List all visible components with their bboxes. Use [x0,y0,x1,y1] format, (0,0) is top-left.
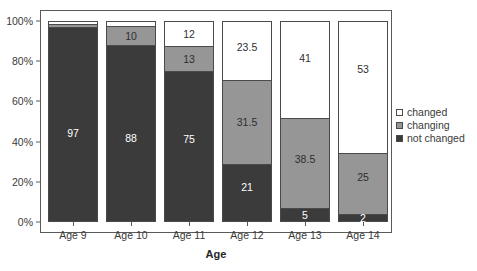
xtick-mark-age-13 [305,222,306,226]
segment-changed-age-13[interactable]: 41 [281,22,329,118]
segment-changing-age-12[interactable]: 31.5 [223,80,271,166]
xtick-label-age-12: Age 12 [230,229,263,241]
xtick-mark-age-11 [189,222,190,226]
ytick-label-40: 40% [12,136,33,148]
ytick-label-100: 100% [6,15,33,27]
bar-group-age-11: 12 13 75 Age 11 [164,21,214,222]
legend-item-not-changed[interactable]: not changed [396,132,476,144]
segment-label-changing-age-13: 38.5 [295,154,315,165]
legend: changed changing not changed [396,106,476,145]
x-axis-title: Age [40,248,392,260]
segment-changing-age-11[interactable]: 13 [165,46,213,72]
bar-group-age-9: 97 Age 9 [48,21,98,222]
xtick-mark-age-12 [247,222,248,226]
xtick-label-age-11: Age 11 [173,229,206,241]
legend-swatch-not-changed-icon [396,135,403,142]
segment-label-changing-age-12: 31.5 [237,117,257,128]
xtick-label-age-10: Age 10 [114,229,147,241]
ytick-label-0: 0% [18,216,33,228]
bar-group-age-14: 53 25 2 Age 14 [338,21,388,222]
ytick-label-80: 80% [12,55,33,67]
ytick-label-20: 20% [12,176,33,188]
ytick-label-60: 60% [12,95,33,107]
bar-age-14[interactable]: 53 25 2 [338,21,388,222]
segment-label-changed-age-12: 23.5 [237,42,257,53]
legend-label-changed: changed [407,106,447,118]
xtick-mark-age-9 [73,222,74,226]
segment-not-changed-age-11[interactable]: 75 [165,72,213,221]
segment-changed-age-12[interactable]: 23.5 [223,22,271,80]
ytick-mark-40 [36,141,40,142]
segment-label-not-changed-age-9: 97 [67,128,79,139]
legend-item-changed[interactable]: changed [396,106,476,118]
segment-label-not-changed-age-10: 88 [125,133,137,144]
legend-item-changing[interactable]: changing [396,119,476,131]
bar-group-age-10: 10 88 Age 10 [106,21,156,222]
stacked-bar-chart: 100% 80% 60% 40% 20% 0% 97 [0,0,477,271]
segment-changing-age-14[interactable]: 25 [339,153,387,215]
segment-label-not-changed-age-11: 75 [183,134,195,145]
legend-swatch-changed-icon [396,109,403,116]
bar-age-13[interactable]: 41 38.5 5 [280,21,330,222]
bar-group-age-12: 23.5 31.5 21 Age 12 [222,21,272,222]
segment-not-changed-age-9[interactable]: 97 [49,28,97,221]
xtick-mark-age-10 [131,222,132,226]
segment-changed-age-11[interactable]: 12 [165,22,213,46]
segment-not-changed-age-14[interactable]: 2 [339,215,387,221]
segment-label-changing-age-14: 25 [357,172,369,183]
segment-label-changed-age-11: 12 [183,29,195,40]
ytick-mark-0 [36,222,40,223]
segment-label-not-changed-age-12: 21 [241,182,253,193]
segment-label-changing-age-11: 13 [183,54,195,65]
ytick-mark-80 [36,61,40,62]
segment-label-not-changed-age-13: 5 [302,210,308,221]
segment-label-changed-age-13: 41 [299,53,311,64]
bar-age-10[interactable]: 10 88 [106,21,156,222]
legend-swatch-changing-icon [396,122,403,129]
plot-area: 100% 80% 60% 40% 20% 0% 97 [40,21,392,222]
ytick-mark-60 [36,101,40,102]
xtick-label-age-14: Age 14 [346,229,379,241]
bar-age-12[interactable]: 23.5 31.5 21 [222,21,272,222]
segment-not-changed-age-12[interactable]: 21 [223,165,271,221]
segment-label-changed-age-14: 53 [357,64,369,75]
segment-changing-age-13[interactable]: 38.5 [281,118,329,210]
legend-label-not-changed: not changed [407,132,465,144]
xtick-label-age-9: Age 9 [59,229,86,241]
segment-not-changed-age-10[interactable]: 88 [107,46,155,221]
ytick-mark-20 [36,181,40,182]
ytick-mark-100 [36,21,40,22]
legend-label-changing: changing [407,119,450,131]
segment-changed-age-14[interactable]: 53 [339,22,387,153]
segment-changing-age-10[interactable]: 10 [107,26,155,46]
segment-label-changing-age-10: 10 [125,31,137,42]
bar-group-age-13: 41 38.5 5 Age 13 [280,21,330,222]
bar-age-9[interactable]: 97 [48,21,98,222]
xtick-label-age-13: Age 13 [288,229,321,241]
bar-age-11[interactable]: 12 13 75 [164,21,214,222]
xtick-mark-age-14 [363,222,364,226]
segment-not-changed-age-13[interactable]: 5 [281,209,329,221]
